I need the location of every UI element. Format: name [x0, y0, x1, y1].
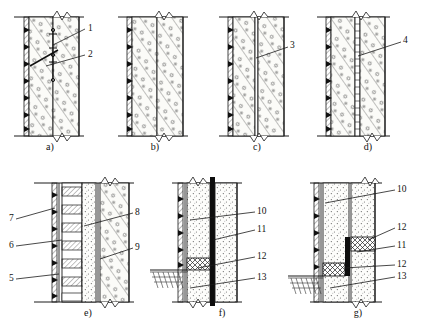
panel-letter-d: d) — [364, 141, 372, 153]
panel-letter-g: g) — [354, 307, 362, 319]
callout-e-9: 9 — [135, 242, 140, 252]
callout-f-10: 10 — [257, 206, 267, 216]
panel-letter-b: b) — [151, 141, 159, 153]
membrane-step-g — [345, 237, 350, 276]
callout-g-13: 13 — [397, 271, 407, 281]
layer-insulation-e — [82, 183, 96, 302]
layer-render-a — [24, 17, 29, 136]
layer-block-courses-e — [62, 183, 82, 302]
panel-g: 10 12 11 12 13 g) — [288, 177, 407, 319]
leader-e-7 — [16, 208, 55, 219]
callout-d-4: 4 — [403, 35, 408, 45]
layer-masonry-inner-b — [132, 17, 157, 136]
callout-g-12-upper: 12 — [397, 222, 407, 232]
layer-render-c — [228, 17, 233, 136]
layer-insulation-inner-f — [187, 183, 210, 302]
layer-insulation-outer-f — [215, 183, 237, 302]
callout-f-11: 11 — [257, 224, 266, 234]
layer-render-d — [326, 17, 331, 136]
callout-g-10: 10 — [397, 184, 407, 194]
layer-ladder-tie-d — [355, 17, 360, 136]
xhatch-block-upper-g — [351, 237, 375, 251]
callout-f-12: 12 — [257, 251, 267, 261]
layer-masonry-outer-c — [258, 17, 284, 136]
panel-f: 10 11 12 13 f) — [150, 177, 267, 319]
callout-e-6: 6 — [9, 240, 14, 250]
layer-render-e — [52, 183, 57, 302]
panel-letter-a: a) — [46, 141, 54, 153]
panel-letter-e: e) — [84, 307, 92, 319]
callout-a-2: 2 — [88, 49, 93, 59]
callout-g-11: 11 — [397, 240, 406, 250]
callout-g-12-lower: 12 — [397, 259, 407, 269]
layer-masonry-outer-e — [100, 183, 129, 302]
callout-a-1: 1 — [88, 23, 93, 33]
panel-e: 7 6 5 8 9 e) — [9, 177, 140, 319]
callout-e-5: 5 — [9, 273, 14, 283]
panel-c: 3 c) — [219, 11, 295, 153]
panel-b: b) — [118, 11, 188, 153]
layer-masonry-inner-d — [331, 17, 355, 136]
xhatch-block-lower-g — [323, 263, 345, 276]
panel-letter-c: c) — [253, 141, 261, 153]
layer-cavity-c — [255, 17, 258, 136]
callout-f-13: 13 — [257, 272, 267, 282]
callout-e-7: 7 — [9, 213, 14, 223]
layer-render-b — [127, 17, 132, 136]
drawing-sheet: 1 2 a) b) — [0, 0, 429, 332]
layer-masonry-outer-b — [157, 17, 183, 136]
panel-d: 4 d) — [317, 11, 408, 153]
layer-masonry-outer-a — [53, 17, 79, 136]
layer-masonry-inner-a — [29, 17, 53, 136]
layer-masonry-outer-d — [360, 17, 385, 136]
panel-letter-f: f) — [219, 307, 226, 319]
callout-c-3: 3 — [290, 40, 295, 50]
panel-a: 1 2 a) — [14, 11, 93, 153]
callout-e-8: 8 — [135, 207, 140, 217]
layer-masonry-inner-c — [233, 17, 255, 136]
membrane-bar-f — [210, 177, 215, 306]
wall-section-figure: 1 2 a) b) — [0, 0, 429, 332]
